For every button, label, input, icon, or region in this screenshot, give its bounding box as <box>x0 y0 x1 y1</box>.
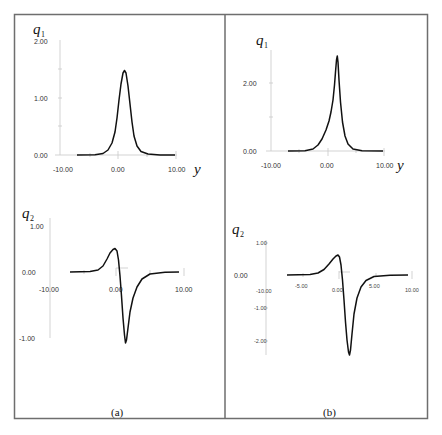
x-tick-label: -10.00 <box>39 286 59 293</box>
x-tick-label: 0.00 <box>111 166 125 173</box>
y-tick-label: -2.00 <box>254 338 267 344</box>
q1-curve <box>288 56 383 151</box>
y-tick-label: 2.00 <box>243 80 257 87</box>
y-tick-label: -1.00 <box>19 335 35 342</box>
x-tick-label: 10.00 <box>405 287 419 293</box>
chart-b-top: q 1 2.00 0.00 -10.00 0.00 10.00 y <box>243 32 404 173</box>
y-axis-label-q2: q <box>232 221 240 237</box>
y-tick-label: 1.00 <box>256 240 267 246</box>
panel-caption-b: (b) <box>323 406 336 419</box>
x-tick-label: 0.00 <box>320 162 334 169</box>
q2-curve <box>287 255 408 355</box>
x-tick-label: -10.00 <box>256 288 272 294</box>
chart-a-bottom: q 2 1.00 0.00 -1.00 -10.00 0.00 10.00 <box>19 205 193 343</box>
x-axis-label-y: y <box>395 157 404 173</box>
y-tick-label: 2.00 <box>34 38 48 45</box>
chart-b-bottom: q 2 1.00 0.00 -1.00 -2.00 -10.00 -5.00 0… <box>232 221 419 355</box>
y-axis-label-q2-sub: 2 <box>30 214 34 223</box>
x-tick-label: 10.00 <box>376 162 394 169</box>
y-tick-label: 0.00 <box>34 152 48 159</box>
y-tick-label: -1.00 <box>254 305 267 311</box>
x-tick-label: 0.00 <box>332 287 343 293</box>
x-tick-label: 10.00 <box>175 286 193 293</box>
x-tick-label: -5.00 <box>295 283 308 289</box>
q2-curve <box>70 249 179 344</box>
x-axis-label-y: y <box>192 161 201 177</box>
y-axis-label-q1-sub: 1 <box>264 41 268 50</box>
y-tick-label: 0.00 <box>243 148 257 155</box>
y-axis-label-q2-sub: 2 <box>240 230 244 239</box>
x-tick-label: -10.00 <box>261 162 281 169</box>
panel-caption-a: (a) <box>111 406 124 419</box>
y-tick-label: 0.00 <box>234 272 248 279</box>
x-tick-label: 10.00 <box>168 166 186 173</box>
x-tick-label: 5.00 <box>369 283 380 289</box>
y-tick-label: 1.00 <box>30 223 44 230</box>
y-axis-label-q1: q <box>33 21 41 37</box>
figure: q 1 2.00 1.00 0.00 -10.00 0.00 10.00 y q… <box>0 0 442 435</box>
y-axis-label-q1: q <box>256 32 264 48</box>
x-tick-label: -10.00 <box>53 166 73 173</box>
chart-a-top: q 1 2.00 1.00 0.00 -10.00 0.00 10.00 y <box>33 21 201 177</box>
figure-frame <box>15 15 428 419</box>
y-tick-label: 0.00 <box>22 269 36 276</box>
y-tick-label: 1.00 <box>34 95 48 102</box>
y-axis-label-q2: q <box>22 205 30 221</box>
q1-curve <box>77 71 175 156</box>
